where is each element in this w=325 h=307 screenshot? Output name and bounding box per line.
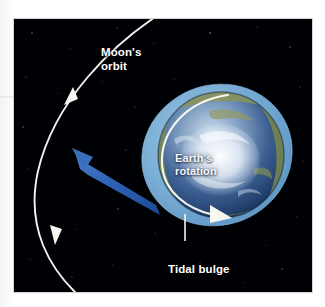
orbit-arrowhead-upper xyxy=(64,87,78,105)
orbit-arrowhead-lower xyxy=(50,225,62,245)
space-panel: Moon's orbit Earth's rotation Tidal bulg… xyxy=(14,19,312,292)
diagram-canvas xyxy=(14,19,312,292)
tidal-bulge-figure: Moon's orbit Earth's rotation Tidal bulg… xyxy=(0,0,325,307)
